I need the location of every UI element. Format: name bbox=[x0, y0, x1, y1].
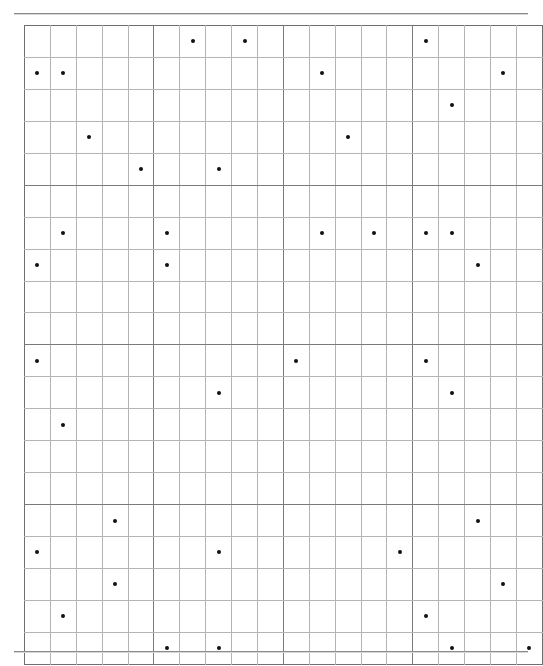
grid-cell[interactable] bbox=[413, 441, 439, 473]
grid-cell[interactable] bbox=[206, 345, 232, 377]
grid-cell[interactable] bbox=[258, 537, 284, 569]
grid-cell[interactable] bbox=[25, 313, 51, 345]
grid-cell[interactable] bbox=[258, 441, 284, 473]
grid-cell[interactable] bbox=[180, 281, 206, 313]
grid-cell[interactable] bbox=[361, 505, 387, 537]
grid-cell[interactable] bbox=[465, 473, 491, 505]
grid-cell[interactable] bbox=[206, 377, 232, 409]
grid-cell[interactable] bbox=[361, 26, 387, 58]
grid-cell[interactable] bbox=[180, 441, 206, 473]
grid-cell[interactable] bbox=[180, 185, 206, 217]
grid-cell[interactable] bbox=[50, 313, 76, 345]
grid-cell[interactable] bbox=[232, 217, 258, 249]
grid-cell[interactable] bbox=[128, 313, 154, 345]
grid-cell[interactable] bbox=[439, 632, 465, 664]
grid-cell[interactable] bbox=[206, 153, 232, 185]
grid-cell[interactable] bbox=[180, 249, 206, 281]
grid-cell[interactable] bbox=[232, 409, 258, 441]
grid-cell[interactable] bbox=[206, 600, 232, 632]
grid-cell[interactable] bbox=[283, 377, 309, 409]
grid-cell[interactable] bbox=[309, 473, 335, 505]
grid-cell[interactable] bbox=[50, 441, 76, 473]
grid-cell[interactable] bbox=[25, 409, 51, 441]
grid-cell[interactable] bbox=[232, 537, 258, 569]
grid-cell[interactable] bbox=[283, 217, 309, 249]
grid-cell[interactable] bbox=[50, 409, 76, 441]
grid-cell[interactable] bbox=[491, 185, 517, 217]
grid-cell[interactable] bbox=[413, 313, 439, 345]
grid-cell[interactable] bbox=[102, 409, 128, 441]
grid-cell[interactable] bbox=[465, 345, 491, 377]
grid-cell[interactable] bbox=[180, 409, 206, 441]
grid-cell[interactable] bbox=[491, 249, 517, 281]
grid-cell[interactable] bbox=[102, 281, 128, 313]
grid-cell[interactable] bbox=[154, 313, 180, 345]
grid-cell[interactable] bbox=[206, 57, 232, 89]
grid-cell[interactable] bbox=[387, 153, 413, 185]
grid-cell[interactable] bbox=[50, 600, 76, 632]
grid-cell[interactable] bbox=[76, 377, 102, 409]
grid-cell[interactable] bbox=[309, 313, 335, 345]
grid-cell[interactable] bbox=[516, 505, 542, 537]
grid-cell[interactable] bbox=[465, 89, 491, 121]
grid-cell[interactable] bbox=[25, 345, 51, 377]
grid-cell[interactable] bbox=[76, 568, 102, 600]
grid-cell[interactable] bbox=[154, 632, 180, 664]
grid-cell[interactable] bbox=[25, 441, 51, 473]
grid-cell[interactable] bbox=[465, 121, 491, 153]
grid-cell[interactable] bbox=[102, 121, 128, 153]
grid-cell[interactable] bbox=[335, 249, 361, 281]
grid-cell[interactable] bbox=[283, 409, 309, 441]
grid-cell[interactable] bbox=[361, 568, 387, 600]
grid-cell[interactable] bbox=[283, 281, 309, 313]
grid-cell[interactable] bbox=[25, 89, 51, 121]
grid-cell[interactable] bbox=[309, 409, 335, 441]
grid-cell[interactable] bbox=[283, 632, 309, 664]
grid-cell[interactable] bbox=[283, 505, 309, 537]
grid-cell[interactable] bbox=[516, 249, 542, 281]
grid-cell[interactable] bbox=[387, 217, 413, 249]
grid-cell[interactable] bbox=[491, 568, 517, 600]
grid-cell[interactable] bbox=[387, 377, 413, 409]
grid-cell[interactable] bbox=[50, 26, 76, 58]
grid-cell[interactable] bbox=[413, 537, 439, 569]
grid-cell[interactable] bbox=[516, 568, 542, 600]
grid-cell[interactable] bbox=[283, 121, 309, 153]
grid-cell[interactable] bbox=[258, 632, 284, 664]
grid-cell[interactable] bbox=[335, 281, 361, 313]
grid-cell[interactable] bbox=[25, 600, 51, 632]
grid-cell[interactable] bbox=[491, 441, 517, 473]
grid-cell[interactable] bbox=[50, 217, 76, 249]
grid-cell[interactable] bbox=[516, 217, 542, 249]
grid-cell[interactable] bbox=[465, 600, 491, 632]
grid-cell[interactable] bbox=[102, 537, 128, 569]
grid-cell[interactable] bbox=[335, 473, 361, 505]
grid-cell[interactable] bbox=[50, 153, 76, 185]
grid-cell[interactable] bbox=[50, 473, 76, 505]
grid-cell[interactable] bbox=[413, 377, 439, 409]
grid-cell[interactable] bbox=[465, 505, 491, 537]
grid-cell[interactable] bbox=[50, 632, 76, 664]
grid-cell[interactable] bbox=[516, 377, 542, 409]
grid-cell[interactable] bbox=[413, 57, 439, 89]
grid-cell[interactable] bbox=[232, 473, 258, 505]
grid-cell[interactable] bbox=[309, 26, 335, 58]
grid-cell[interactable] bbox=[413, 600, 439, 632]
grid-cell[interactable] bbox=[258, 313, 284, 345]
grid-cell[interactable] bbox=[154, 185, 180, 217]
grid-cell[interactable] bbox=[102, 568, 128, 600]
grid-cell[interactable] bbox=[387, 281, 413, 313]
grid-cell[interactable] bbox=[180, 537, 206, 569]
grid-cell[interactable] bbox=[102, 249, 128, 281]
grid-cell[interactable] bbox=[516, 473, 542, 505]
grid-cell[interactable] bbox=[102, 217, 128, 249]
grid-cell[interactable] bbox=[232, 281, 258, 313]
grid-cell[interactable] bbox=[439, 473, 465, 505]
grid-cell[interactable] bbox=[128, 537, 154, 569]
grid-cell[interactable] bbox=[361, 281, 387, 313]
grid-cell[interactable] bbox=[180, 345, 206, 377]
grid-cell[interactable] bbox=[232, 153, 258, 185]
grid-cell[interactable] bbox=[128, 217, 154, 249]
grid-cell[interactable] bbox=[206, 409, 232, 441]
grid-cell[interactable] bbox=[180, 313, 206, 345]
